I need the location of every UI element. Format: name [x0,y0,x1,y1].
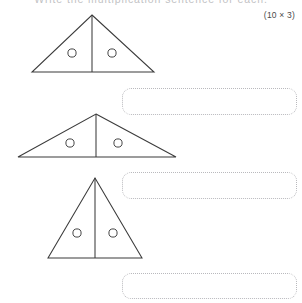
triangle-outline-2 [18,114,176,157]
triangle-dot-icon-1a [68,49,76,57]
answer-box-1[interactable] [122,88,297,115]
worksheet-title: Write the multiplication sentence for ea… [0,0,302,5]
answer-box-3[interactable] [122,273,297,299]
triangle-outline-1 [32,15,154,72]
marks-label: (10 × 3) [264,10,295,20]
figure-triangle-2 [16,113,178,161]
triangle-dot-icon-1b [108,49,116,57]
figure-triangle-3 [46,177,144,261]
triangle-dot-icon-2b [114,139,122,147]
answer-box-2[interactable] [122,172,297,199]
worksheet-page: Write the multiplication sentence for ea… [0,0,302,303]
figure-triangle-1 [30,14,156,76]
triangle-dot-icon-3a [73,229,81,237]
triangle-dot-icon-2a [66,139,74,147]
triangle-dot-icon-3b [109,229,117,237]
